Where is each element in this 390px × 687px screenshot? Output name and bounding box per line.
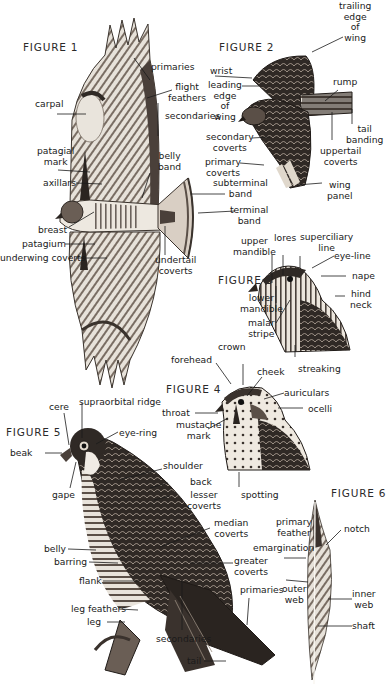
label-secondaries-fig5: secondaries — [156, 634, 211, 645]
label-shoulder: shoulder — [163, 461, 203, 472]
label-emargination: emargination — [253, 543, 314, 554]
label-eye-ring: eye-ring — [119, 428, 157, 439]
label-throat: throat — [162, 408, 190, 419]
label-outer-web: outer web — [282, 584, 306, 605]
label-wrist: wrist — [210, 66, 232, 77]
label-malar-stripe: malar stripe — [248, 318, 275, 339]
label-inner-web: inner web — [352, 589, 376, 610]
label-beak: beak — [10, 448, 32, 459]
label-lores: lores — [274, 233, 296, 244]
figure2-title: FIGURE 2 — [219, 41, 274, 53]
label-underwing-coverts: underwing coverts — [0, 253, 85, 264]
label-tail: tail — [187, 656, 201, 667]
label-mustache-mark: mustache mark — [176, 420, 221, 441]
label-leg: leg — [87, 617, 101, 628]
label-uppertail-coverts: uppertail coverts — [320, 146, 361, 167]
figure3-title: FIGURE 3 — [218, 274, 273, 286]
label-primary-feather: primary feather — [276, 517, 312, 538]
label-breast: breast — [38, 225, 67, 236]
label-leg-feathers: leg feathers — [71, 604, 126, 615]
label-flank: flank — [79, 576, 102, 587]
label-secondary-coverts: secondary coverts — [206, 132, 254, 153]
label-lower-mandible: lower mandible — [240, 293, 283, 314]
label-wing-panel: wing panel — [327, 180, 353, 201]
label-axillars: axillars — [43, 178, 76, 189]
label-patagium: patagium — [22, 239, 66, 250]
label-cere: cere — [49, 402, 69, 413]
label-undertail-coverts: undertail coverts — [155, 255, 196, 276]
label-back: back — [190, 477, 212, 488]
label-spotting: spotting — [241, 490, 279, 501]
label-primaries-fig5: primaries — [240, 585, 284, 596]
label-belly-band: belly band — [158, 151, 181, 172]
label-belly: belly — [44, 544, 66, 555]
label-streaking: streaking — [298, 364, 341, 375]
label-barring: barring — [54, 557, 87, 568]
figure5-title: FIGURE 5 — [6, 426, 61, 438]
label-eye-line: eye-line — [334, 251, 371, 262]
label-ocelli: ocelli — [308, 404, 332, 415]
label-rump: rump — [333, 77, 357, 88]
label-greater-coverts: greater coverts — [234, 556, 268, 577]
label-tail-banding: tail banding — [346, 124, 383, 145]
label-cheek: cheek — [257, 367, 285, 378]
label-carpal: carpal — [35, 99, 63, 110]
label-subterminal-band: subterminal band — [213, 178, 268, 199]
label-primary-coverts: primary coverts — [205, 157, 241, 178]
label-terminal-band: terminal band — [230, 205, 268, 226]
label-gape: gape — [52, 490, 75, 501]
label-trailing-edge-of-wing: trailing edge of wing — [339, 1, 371, 43]
label-median-coverts: median coverts — [214, 518, 248, 539]
label-supraorbital-ridge: supraorbital ridge — [79, 397, 161, 408]
label-nape: nape — [352, 271, 375, 282]
label-crown: crown — [218, 342, 246, 353]
figure4-title: FIGURE 4 — [166, 383, 221, 395]
label-patagial-mark: patagial mark — [37, 146, 74, 167]
label-forehead: forehead — [171, 355, 212, 366]
label-auriculars: auriculars — [284, 388, 329, 399]
label-lesser-coverts: lesser coverts — [187, 490, 221, 511]
label-upper-mandible: upper mandible — [233, 236, 276, 257]
label-leading-edge-of-wing: leading edge of wing — [208, 80, 242, 122]
label-flight-feathers: flight feathers — [168, 82, 206, 103]
bird-anatomy-plate: FIGURE 1 FIGURE 2 FIGURE 3 FIGURE 4 FIGU… — [0, 0, 390, 687]
label-notch: notch — [344, 524, 370, 535]
figure1-hawk-underside — [55, 18, 193, 388]
label-primaries-fig1: primaries — [151, 62, 195, 73]
label-shaft: shaft — [352, 621, 375, 632]
figure6-title: FIGURE 6 — [331, 487, 386, 499]
label-hind-neck: hind neck — [350, 289, 372, 310]
figure1-title: FIGURE 1 — [23, 41, 78, 53]
figure4-falcon-head — [215, 387, 310, 470]
